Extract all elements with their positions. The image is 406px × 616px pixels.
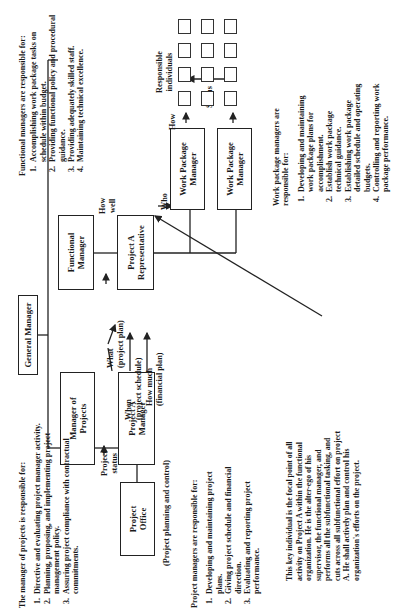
individual-square — [224, 19, 237, 34]
functional-managers-heading: Functional managers are responsible for: — [18, 11, 27, 176]
project-managers-responsibilities: Project managers are responsible for: De… — [190, 463, 262, 608]
individual-square — [201, 19, 214, 34]
responsibility-item: Giving project schedule and financial di… — [224, 463, 243, 596]
functional-manager-label: Functional Manager — [66, 233, 86, 273]
individual-square — [178, 19, 191, 34]
responsibility-item: Directive and evaluating project manager… — [33, 423, 42, 596]
responsibility-item: Developing and maintaining work package … — [297, 81, 325, 194]
work-package-manager-label-1: Work Package Manager — [178, 142, 198, 196]
how-much-label: How much (financial plan) — [145, 353, 164, 406]
individual-square — [201, 91, 214, 106]
responsible-individuals-label: Responsible individuals — [155, 51, 174, 93]
project-a-representative-label: Project A Representative — [126, 225, 146, 280]
work-package-managers-responsibilities: Work package managers are responsible fo… — [272, 81, 391, 206]
manager-of-projects-heading: The manager of projects is responsible f… — [18, 423, 27, 608]
project-a-representative-box: Project A Representative — [117, 215, 154, 290]
responsibility-item: Establish work package technical guidanc… — [325, 81, 344, 194]
individual-square — [178, 91, 191, 106]
key-individual-description: This key individual is the focal point o… — [285, 431, 361, 581]
individual-square — [178, 43, 191, 58]
project-office-box: Project Office — [120, 482, 155, 556]
individual-square — [224, 91, 237, 106]
what-label: What (project plan) — [106, 320, 125, 368]
responsibility-item: Providing functional policy and procedur… — [48, 11, 67, 164]
work-package-managers-heading: Work package managers are responsible fo… — [272, 81, 291, 206]
responsibility-item: Planning, proposing, and implementing pr… — [43, 423, 62, 596]
work-package-manager-box-1: Work Package Manager — [170, 128, 205, 210]
project-office-caption: (Project planning and control) — [162, 460, 172, 566]
project-office-label: Project Office — [128, 506, 148, 533]
project-managers-heading: Project managers are responsible for: — [190, 463, 199, 608]
how-well-label: How well — [98, 198, 117, 214]
responsibility-item: Evaluating and reporting project perform… — [243, 463, 262, 596]
when-label: When (project schedule) — [124, 358, 143, 420]
responsibility-item: Assuring project compliance with contrac… — [62, 423, 81, 596]
responsibility-item: Accomplishing work package tasks on sche… — [29, 11, 48, 164]
individual-square — [224, 43, 237, 58]
manager-of-projects-responsibilities: The manager of projects is responsible f… — [18, 423, 80, 608]
responsibility-item: Controlling and reporting work package p… — [372, 81, 391, 194]
individual-square — [201, 43, 214, 58]
individual-square — [201, 67, 214, 82]
org-chart-page: General Manager Manager of Projects Proj… — [0, 0, 406, 616]
general-manager-label: General Manager — [23, 302, 33, 367]
who-label: Who — [160, 193, 170, 210]
functional-manager-box: Functional Manager — [58, 215, 94, 290]
responsibility-item: Establishing work package detailed sched… — [344, 81, 372, 194]
individual-square — [178, 67, 191, 82]
project-status-label: Project status — [100, 451, 119, 476]
responsibility-item: Maintaining technical excellence. — [76, 11, 85, 164]
general-manager-box: General Manager — [18, 295, 38, 375]
work-package-manager-box-2: Work Package Manager — [217, 128, 252, 210]
work-package-manager-label-2: Work Package Manager — [225, 142, 245, 196]
responsibility-item: Providing adequately skilled staff. — [67, 11, 76, 164]
individual-square — [224, 67, 237, 82]
responsibility-item: Developing and maintaining project plans… — [205, 463, 224, 596]
functional-managers-responsibilities: Functional managers are responsible for:… — [18, 11, 86, 176]
how-label: How — [168, 114, 178, 130]
